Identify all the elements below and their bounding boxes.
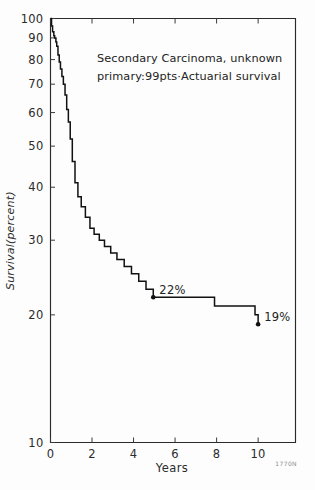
data-annotations: 22%19% <box>151 283 291 326</box>
y-axis-tick-labels: 102030405060708090100 <box>21 12 44 450</box>
survival-chart: 102030405060708090100 0246810 Survival(p… <box>0 0 315 490</box>
y-tick-label: 30 <box>28 233 43 247</box>
data-point-marker <box>256 322 261 327</box>
y-axis-ticks <box>51 19 56 443</box>
x-tick-label: 0 <box>47 447 55 461</box>
data-point-label: 22% <box>159 283 185 297</box>
y-tick-label: 90 <box>28 31 43 45</box>
y-tick-label: 20 <box>28 308 43 322</box>
y-tick-label: 70 <box>28 77 43 91</box>
y-axis-title: Survival(percent) <box>4 191 17 290</box>
data-point-marker <box>151 295 156 300</box>
chart-title-line-1: Secondary Carcinoma, unknown <box>97 52 282 65</box>
x-tick-label: 4 <box>130 447 138 461</box>
x-tick-label: 6 <box>171 447 179 461</box>
x-tick-label: 10 <box>251 447 266 461</box>
y-tick-label: 10 <box>28 436 43 450</box>
x-axis-title: Years <box>155 461 188 475</box>
y-tick-label: 60 <box>28 106 43 120</box>
data-point-label: 19% <box>264 310 290 324</box>
y-tick-label: 50 <box>28 139 43 153</box>
chart-title-line-2: primary:99pts·Actuarial survival <box>97 70 281 83</box>
watermark-label: 1770N <box>275 460 297 467</box>
figure-page: 102030405060708090100 0246810 Survival(p… <box>0 0 315 490</box>
y-tick-label: 40 <box>28 180 43 194</box>
y-tick-label: 80 <box>28 53 43 67</box>
y-tick-label: 100 <box>21 12 44 26</box>
x-tick-label: 8 <box>213 447 221 461</box>
x-axis-tick-labels: 0246810 <box>47 447 266 461</box>
x-tick-label: 2 <box>88 447 96 461</box>
